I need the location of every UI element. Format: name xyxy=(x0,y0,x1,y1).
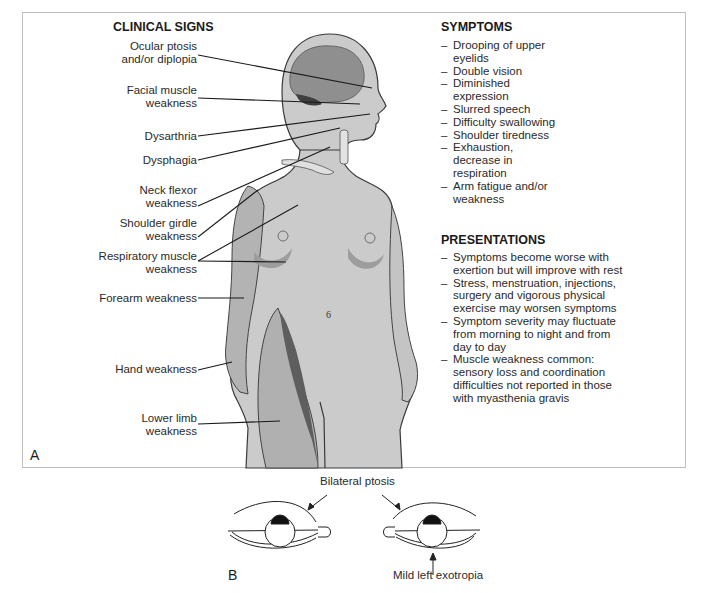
presentations-heading: PRESENTATIONS xyxy=(441,233,545,247)
presentation-item: Muscle weakness common: sensory loss and… xyxy=(441,353,627,404)
navel-mark: 6 xyxy=(326,309,331,320)
panel-a-letter: A xyxy=(30,447,39,463)
label-hand-weakness: Hand weakness xyxy=(115,363,197,376)
label-facial-muscle-weakness: Facial muscle weakness xyxy=(127,84,197,110)
label-shoulder-girdle-weakness: Shoulder girdle weakness xyxy=(120,217,197,243)
symptoms-heading: SYMPTOMS xyxy=(441,20,512,34)
label-neck-flexor-weakness: Neck flexor weakness xyxy=(139,184,197,210)
symptom-item: Slurred speech xyxy=(441,103,561,116)
symptoms-list: Drooping of upper eyelids Double vision … xyxy=(441,39,561,205)
symptom-item: Difficulty swallowing xyxy=(441,116,561,129)
presentations-list: Symptoms become worse with exertion but … xyxy=(441,251,627,405)
symptom-item: Shoulder tiredness xyxy=(441,129,561,142)
label-dysphagia: Dysphagia xyxy=(143,154,197,167)
presentation-item: Symptom severity may fluctuate from morn… xyxy=(441,315,627,353)
symptom-item: Arm fatigue and/or weakness xyxy=(441,180,561,206)
label-ocular-ptosis: Ocular ptosis and/or diplopia xyxy=(122,40,197,66)
presentation-item: Stress, menstruation, injections, surger… xyxy=(441,277,627,315)
symptom-item: Diminished expression xyxy=(441,77,561,103)
label-lower-limb-weakness: Lower limb weakness xyxy=(141,412,197,438)
symptom-item: Double vision xyxy=(441,65,561,78)
mild-left-exotropia-label: Mild left exotropia xyxy=(393,569,483,581)
symptom-item: Exhaustion, decrease in respiration xyxy=(441,141,561,179)
presentation-item: Symptoms become worse with exertion but … xyxy=(441,251,627,277)
trachea-shape xyxy=(340,130,348,164)
panel-b-letter: B xyxy=(228,567,237,583)
clinical-signs-heading: CLINICAL SIGNS xyxy=(113,20,213,34)
label-forearm-weakness: Forearm weakness xyxy=(99,292,197,305)
symptom-item: Drooping of upper eyelids xyxy=(441,39,561,65)
bilateral-ptosis-label: Bilateral ptosis xyxy=(320,475,395,487)
label-dysarthria: Dysarthria xyxy=(145,130,197,143)
label-respiratory-muscle-weakness: Respiratory muscle weakness xyxy=(99,250,197,276)
eye-diagram xyxy=(228,495,480,575)
